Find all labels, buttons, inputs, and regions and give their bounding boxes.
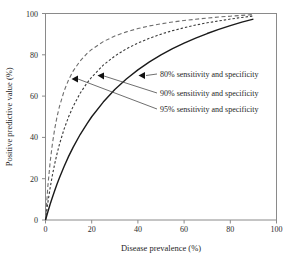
y-tick-label-20: 20 (30, 175, 38, 184)
y-tick-label-80: 80 (30, 51, 38, 60)
x-tick-label-100: 100 (271, 225, 283, 234)
x-tick-label-60: 60 (180, 225, 188, 234)
annotation-label-95: 95% sensitivity and specificity (160, 105, 258, 114)
annotation-label-80: 80% sensitivity and specificity (160, 70, 258, 79)
x-tick-label-20: 20 (88, 225, 96, 234)
x-axis-title: Disease prevalence (%) (121, 243, 201, 253)
y-axis-title: Positive predictive value (%) (4, 67, 14, 166)
x-tick-label-80: 80 (226, 225, 234, 234)
y-tick-label-60: 60 (30, 92, 38, 101)
ppv-prevalence-chart-figure: 0 20 40 60 80 100 0 20 40 60 80 100 Dise… (0, 0, 295, 262)
y-tick-label-40: 40 (30, 133, 38, 142)
annotation-label-90: 90% sensitivity and specificity (160, 89, 258, 98)
x-tick-label-40: 40 (134, 225, 142, 234)
chart-canvas: 0 20 40 60 80 100 0 20 40 60 80 100 Dise… (0, 0, 295, 262)
y-tick-label-100: 100 (26, 10, 38, 19)
y-tick-label-0: 0 (34, 216, 38, 225)
x-tick-label-0: 0 (44, 225, 48, 234)
